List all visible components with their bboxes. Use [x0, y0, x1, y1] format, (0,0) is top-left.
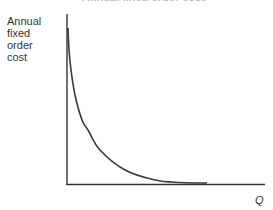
- chart-plot-area: [0, 0, 273, 210]
- x-axis-label: Q: [255, 194, 264, 206]
- cost-curve: [68, 28, 207, 183]
